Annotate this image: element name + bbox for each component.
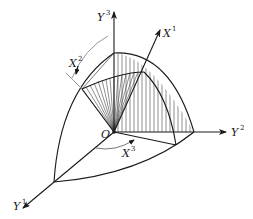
label-x3: X 3 xyxy=(121,145,135,160)
coordinate-diagram: Y 3 Y 2 Y 1 X 1 X 2 X 3 O xyxy=(0,0,253,219)
hatched-face-right xyxy=(118,50,190,132)
label-y3: Y 3 xyxy=(97,9,110,24)
origin-point xyxy=(112,130,116,134)
svg-text:3: 3 xyxy=(131,145,135,153)
svg-text:2: 2 xyxy=(240,124,244,132)
label-y2: Y 2 xyxy=(231,124,244,139)
svg-text:X: X xyxy=(121,147,131,160)
svg-text:1: 1 xyxy=(22,198,26,206)
svg-text:3: 3 xyxy=(106,9,110,17)
label-x2: X 2 xyxy=(68,55,82,70)
ray-x3 xyxy=(114,132,176,145)
svg-text:X: X xyxy=(68,57,78,70)
svg-text:Y: Y xyxy=(231,126,240,139)
svg-text:X: X xyxy=(162,27,172,40)
svg-text:O: O xyxy=(101,128,110,141)
svg-text:1: 1 xyxy=(172,25,176,33)
svg-text:2: 2 xyxy=(78,55,82,63)
axis-y1 xyxy=(23,132,114,208)
label-y1: Y 1 xyxy=(13,198,26,213)
label-origin: O xyxy=(101,128,110,141)
svg-text:Y: Y xyxy=(13,200,22,213)
svg-text:Y: Y xyxy=(97,11,106,24)
label-x1: X 1 xyxy=(162,25,176,40)
hatched-fan-left xyxy=(82,72,138,132)
